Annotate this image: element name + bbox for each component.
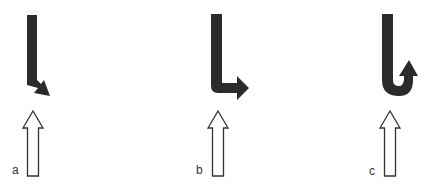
panel-b-up-arrow-icon — [208, 111, 228, 176]
panel-a-up-arrow-icon — [23, 111, 43, 176]
panel-c-up-arrow-icon — [380, 111, 400, 176]
panel-b-right-turn-arrow-icon — [211, 14, 249, 100]
panel-a-filled-arrow-icon — [27, 15, 50, 96]
panel-c-label: c — [369, 165, 375, 177]
panel-b-label: b — [196, 164, 203, 176]
arrow-diagram: a b c — [0, 0, 428, 189]
arrow-diagram-svg — [0, 0, 428, 189]
panel-c-u-turn-arrow-icon — [382, 14, 418, 96]
panel-a-label: a — [12, 164, 19, 176]
